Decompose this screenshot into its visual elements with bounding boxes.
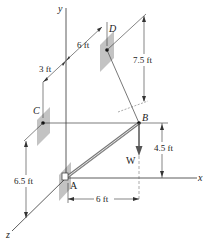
dim-6ft-bottom: 6 ft: [96, 194, 109, 204]
dim-arrow: [24, 141, 28, 147]
dim-7-5ft: 7.5 ft: [133, 55, 152, 65]
force-w-arrowhead: [136, 146, 143, 156]
dim-6-5ft: 6.5 ft: [14, 176, 33, 186]
dim-4-5ft: 4.5 ft: [154, 143, 173, 153]
dim-arrow: [68, 197, 74, 201]
dim-6ft-top: 6 ft: [77, 40, 90, 50]
label-c: C: [33, 105, 40, 116]
dashed-ref: [118, 101, 148, 112]
label-d: D: [108, 23, 117, 34]
y-axis-label: y: [57, 3, 63, 14]
dim-arrow: [66, 56, 70, 61]
label-a: A: [70, 180, 78, 191]
label-b: B: [142, 112, 148, 123]
x-axis-label: x: [197, 172, 203, 183]
dim-arrow: [24, 212, 28, 218]
dim-arrow: [160, 171, 164, 177]
dim-arrow: [142, 96, 146, 102]
statics-diagram: y x z D C B A W 3 ft 6 ft 7.5 ft: [0, 0, 209, 241]
force-w-label: W: [126, 155, 136, 166]
dim-arrow: [43, 77, 48, 82]
dim-line-top-diag: [43, 27, 102, 82]
boom-a-b-highlight: [67, 123, 139, 177]
support-a: [62, 173, 68, 180]
dim-3ft: 3 ft: [39, 64, 52, 74]
dim-arrow: [133, 197, 139, 201]
z-axis-label: z: [5, 229, 10, 240]
boom-a-b-edge: [70, 131, 130, 176]
dim-arrow: [160, 124, 164, 130]
